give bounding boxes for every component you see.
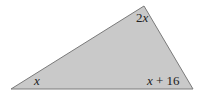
- angle-label-top: 2x: [136, 10, 149, 25]
- angle-label-right: x + 16: [146, 73, 180, 88]
- angle-label-left: x: [33, 73, 40, 88]
- triangle-diagram: 2x x x + 16: [0, 0, 202, 101]
